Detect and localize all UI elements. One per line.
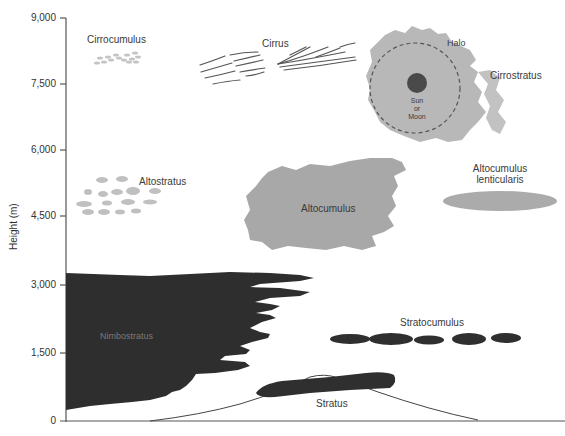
label-altocumulus: Altocumulus — [301, 203, 355, 214]
label-altocumulus-part: Altocumulus — [464, 163, 536, 174]
label-sun-or-moon: Sun or Moon — [404, 97, 430, 121]
label-altostratus: Altostratus — [139, 176, 186, 187]
label-cirrocumulus: Cirrocumulus — [87, 34, 146, 45]
sun-or-moon — [407, 73, 427, 93]
y-tick-6000: 6,000 — [4, 145, 56, 155]
y-tick-7500: 7,500 — [4, 79, 56, 89]
label-stratus: Stratus — [316, 398, 348, 409]
label-or: or — [404, 105, 430, 113]
y-tick-9000: 9,000 — [4, 13, 56, 23]
y-tick-0: 0 — [4, 416, 56, 426]
label-sun: Sun — [404, 97, 430, 105]
cirrostratus-cloud — [366, 26, 506, 142]
y-tick-3000: 3,000 — [4, 280, 56, 290]
y-axis-label: Height (m) — [8, 203, 19, 250]
stratus-cloud — [150, 372, 478, 421]
cloud-height-diagram: 9,000 7,500 6,000 4,500 3,000 1,500 0 He… — [0, 0, 565, 436]
label-moon: Moon — [404, 113, 430, 121]
label-cirrostratus: Cirrostratus — [490, 70, 542, 81]
label-altocumulus-lenticularis: Altocumulus lenticularis — [464, 163, 536, 185]
stratocumulus-cloud — [330, 333, 521, 345]
label-halo: Halo — [447, 38, 466, 49]
cirrus-cloud — [200, 43, 356, 84]
label-nimbostratus: Nimbostratus — [100, 331, 153, 342]
label-cirrus: Cirrus — [262, 38, 289, 49]
cirrocumulus-cloud — [94, 52, 141, 65]
label-lenticularis-part: lenticularis — [464, 174, 536, 185]
diagram-graphics — [0, 0, 565, 436]
altocumulus-lenticularis-cloud — [443, 191, 557, 211]
label-stratocumulus: Stratocumulus — [400, 317, 464, 328]
y-tick-1500: 1,500 — [4, 348, 56, 358]
